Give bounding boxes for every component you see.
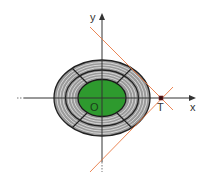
point-t-label: T bbox=[157, 101, 164, 113]
y-axis-label: y bbox=[90, 11, 96, 23]
point-t-marker bbox=[159, 96, 163, 100]
origin-label: O bbox=[90, 101, 99, 113]
y-arrow-icon bbox=[99, 13, 105, 20]
diagram-canvas: y x O T bbox=[0, 0, 207, 185]
x-axis-label: x bbox=[190, 101, 196, 113]
